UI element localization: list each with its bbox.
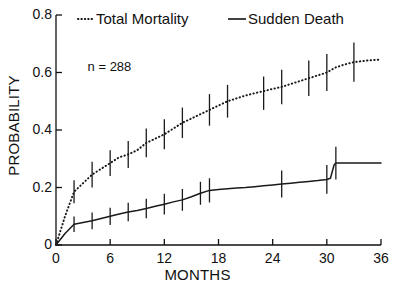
x-tick-label: 18 (199, 250, 239, 266)
y-tick-label: 0.2 (16, 179, 52, 195)
x-tick-label: 30 (307, 250, 347, 266)
sample-size-annotation: n = 288 (88, 59, 132, 74)
x-tick-label: 6 (90, 250, 130, 266)
legend-item-sudden-death: Sudden Death (248, 10, 344, 27)
axes (56, 15, 381, 245)
x-tick-label: 0 (36, 250, 76, 266)
y-tick-label: 0.8 (16, 6, 52, 22)
series-line-sudden-death (56, 163, 381, 245)
x-tick-label: 12 (144, 250, 184, 266)
figure: PROBABILITY MONTHS 00.20.40.60.8 0612182… (0, 0, 395, 293)
legend-item-total-mortality: Total Mortality (96, 10, 189, 27)
y-tick-label: 0.4 (16, 121, 52, 137)
x-tick-label: 24 (253, 250, 293, 266)
y-tick-label: 0.6 (16, 64, 52, 80)
x-tick-label: 36 (361, 250, 395, 266)
x-axis-label: MONTHS (0, 266, 395, 283)
